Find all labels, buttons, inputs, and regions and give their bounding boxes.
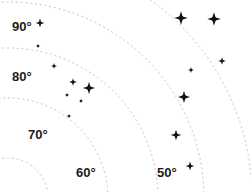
marker-core	[182, 95, 186, 99]
data-point	[186, 162, 195, 171]
gridline-arc	[0, 158, 48, 192]
axis-tick-label-90: 90°	[12, 20, 32, 33]
marker-core	[72, 81, 75, 84]
data-point	[69, 78, 77, 86]
data-point	[207, 12, 221, 26]
marker-core	[190, 69, 192, 71]
data-point-markers	[36, 11, 226, 170]
marker-core	[179, 16, 184, 21]
axis-tick-label-60: 60°	[76, 166, 96, 179]
marker-core	[53, 65, 55, 67]
marker-core	[37, 45, 39, 47]
data-point	[188, 67, 194, 73]
gridline-arc	[0, 0, 251, 192]
marker-core	[38, 21, 41, 24]
marker-core	[174, 133, 178, 137]
polar-scatter-chart: 90° 80° 70° 60° 50°	[0, 0, 251, 192]
data-point	[79, 99, 84, 104]
marker-core	[68, 115, 70, 117]
data-point	[36, 44, 41, 49]
marker-core	[212, 17, 217, 22]
data-point	[174, 11, 188, 25]
marker-core	[87, 86, 91, 90]
marker-core	[66, 94, 68, 96]
marker-core	[188, 164, 191, 167]
data-point	[218, 57, 226, 65]
data-point	[36, 19, 45, 28]
data-point	[65, 93, 70, 98]
axis-tick-label-80: 80°	[12, 70, 32, 83]
axis-tick-label-70: 70°	[28, 128, 48, 141]
axis-tick-label-50: 50°	[157, 166, 177, 179]
chart-canvas	[0, 0, 251, 192]
gridline-arcs	[0, 0, 251, 192]
data-point	[83, 82, 95, 94]
marker-core	[221, 60, 224, 63]
data-point	[51, 63, 57, 69]
data-point	[178, 91, 190, 103]
marker-core	[80, 100, 82, 102]
data-point	[171, 130, 182, 141]
